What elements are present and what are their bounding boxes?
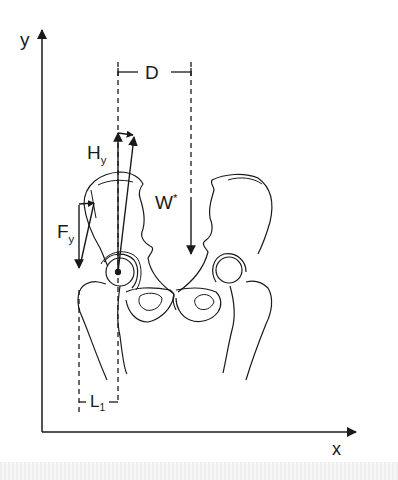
- x-axis-label-text: x: [332, 439, 341, 459]
- bottom-scan-strip: [0, 462, 398, 480]
- hy-label-subscript: y: [101, 154, 107, 166]
- w-label-superscript: *: [173, 192, 177, 204]
- w-label-main: W: [155, 192, 173, 213]
- fy-label-subscript: y: [69, 233, 75, 245]
- hip-joint-center: [116, 270, 121, 275]
- fy-horizontal-component: [79, 203, 94, 204]
- left-femur: [78, 282, 107, 380]
- hy-horizontal-component: [118, 133, 133, 135]
- d-label: D: [145, 63, 159, 82]
- right-femur: [246, 281, 272, 380]
- x-axis-label: x: [332, 440, 341, 458]
- d-label-text: D: [145, 62, 159, 83]
- fy-resultant-vector: [80, 203, 94, 266]
- right-ilium: [178, 174, 272, 292]
- left-ilium: [84, 172, 174, 294]
- l1-label: L1: [90, 393, 105, 414]
- y-axis-label-text: y: [20, 29, 30, 50]
- right-femoral-head: [216, 257, 242, 283]
- y-axis-label: y: [20, 30, 30, 49]
- fy-label: Fy: [57, 222, 74, 245]
- right-pubis: [176, 288, 221, 322]
- pubic-symphysis: [173, 294, 176, 310]
- l1-label-subscript: 1: [99, 402, 105, 413]
- hy-label: Hy: [87, 143, 106, 166]
- hy-label-main: H: [87, 142, 101, 163]
- w-star-label: W*: [155, 193, 177, 212]
- fy-label-main: F: [57, 221, 69, 242]
